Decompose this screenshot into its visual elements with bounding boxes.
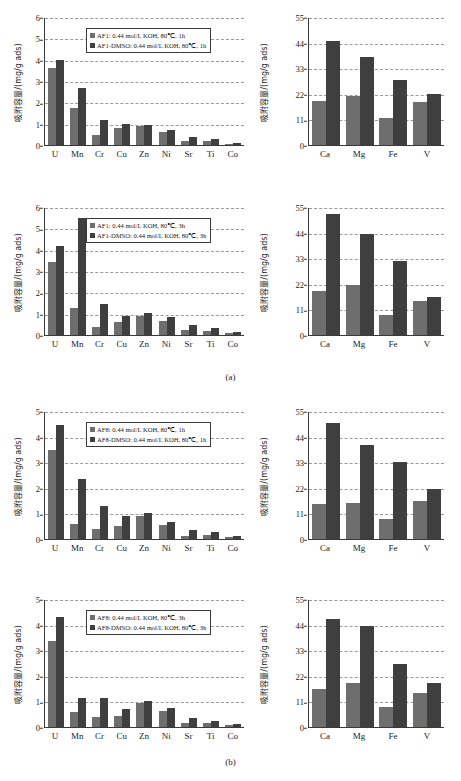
y-tick-label: 4 (36, 433, 40, 442)
x-tick-label-Ti: Ti (200, 543, 222, 553)
x-tick-label-Ni: Ni (155, 149, 177, 159)
bar-group-Fe (379, 600, 407, 727)
legend-entry: AF1: 0.44 mol/L KOH, 80℃, 1h (90, 31, 206, 41)
y-axis-ticks: 0123456 (26, 208, 42, 336)
x-tick-label-Fe: Fe (376, 543, 410, 553)
legend-entry: AF8: 0.44 mol/L KOH, 80℃, 1h (90, 425, 206, 435)
x-tick-label-Fe: Fe (376, 149, 410, 159)
bar-group-Fe (379, 208, 407, 335)
x-axis-ticks: UMnCrCuZnNiSrTiCo (44, 149, 244, 159)
x-tick-label-V: V (410, 731, 444, 741)
bar-Cr-series2 (100, 506, 108, 539)
bar-Ca-series2 (326, 423, 340, 539)
y-tick-label: 0 (300, 332, 304, 341)
y-axis-label: 吸附容量/(mg/g ads) (10, 18, 24, 146)
x-tick-label-Mg: Mg (342, 339, 376, 349)
y-axis-label: 吸附容量/(mg/g ads) (10, 208, 24, 336)
bar-Zn-series2 (144, 313, 152, 335)
bar-group-U (48, 600, 64, 727)
x-tick-label-Fe: Fe (376, 339, 410, 349)
x-tick-label-Ca: Ca (308, 149, 342, 159)
bar-Mn-series2 (78, 479, 86, 539)
y-axis-label-text: 吸附容量/(mg/g ads) (12, 437, 23, 515)
bar-Mg-series2 (360, 57, 374, 145)
legend-swatch-icon (90, 43, 95, 48)
bar-Cr-series2 (100, 698, 108, 727)
y-tick-label: 3 (36, 268, 40, 277)
bar-Co-series1 (225, 725, 233, 727)
y-tick-label: 44 (296, 229, 305, 238)
bar-Zn-series2 (144, 513, 152, 539)
bar-Sr-series2 (189, 718, 197, 727)
y-tick-label: 11 (296, 116, 304, 125)
y-tick-label: 0 (300, 142, 304, 151)
bar-group-V (413, 412, 441, 539)
y-tick-label: 55 (296, 14, 305, 23)
bar-Fe-series2 (393, 261, 407, 335)
y-tick-label: 22 (296, 485, 305, 494)
bar-Mg-series1 (346, 96, 360, 145)
bar-U-series1 (48, 262, 56, 335)
x-axis-ticks: CaMgFeV (308, 731, 444, 741)
bar-Mg-series1 (346, 285, 360, 335)
legend-label: AF1-DMSO: 0.44 mol/L KOH, 80℃, 3h (97, 231, 206, 241)
bar-Ca-series1 (312, 101, 326, 145)
bar-Mn-series1 (70, 108, 78, 145)
x-tick-label-Cr: Cr (88, 731, 110, 741)
chart-panel-af1-1h-trace: 吸附容量/(mg/g ads)0123456UMnCrCuZnNiSrTiCoA… (10, 6, 244, 166)
y-tick-label: 2 (36, 673, 40, 682)
bar-group-Ca (312, 600, 340, 727)
bar-Ti-series2 (211, 721, 219, 727)
bar-U-series1 (48, 450, 56, 539)
x-axis-ticks: UMnCrCuZnNiSrTiCo (44, 731, 244, 741)
legend-label: AF8: 0.44 mol/L KOH, 80℃, 1h (97, 425, 185, 435)
x-tick-label-Cr: Cr (88, 543, 110, 553)
y-tick-label: 4 (36, 621, 40, 630)
bar-Fe-series1 (379, 519, 393, 539)
legend-entry: AF1-DMSO: 0.44 mol/L KOH, 80℃, 3h (90, 231, 206, 241)
legend-swatch-icon (90, 615, 95, 620)
bar-Zn-series1 (136, 126, 144, 145)
x-tick-label-Ti: Ti (200, 731, 222, 741)
y-tick-label: 11 (296, 698, 304, 707)
plot-area (308, 412, 444, 540)
x-tick-label-Ca: Ca (308, 339, 342, 349)
bar-Fe-series1 (379, 315, 393, 335)
y-tick-label: 3 (36, 459, 40, 468)
y-axis-label-text: 吸附容量/(mg/g ads) (258, 233, 269, 311)
x-tick-label-Mg: Mg (342, 543, 376, 553)
bar-group-Ca (312, 18, 340, 145)
bar-Ni-series2 (167, 317, 175, 335)
legend-entry: AF8-DMSO: 0.44 mol/L KOH, 80℃, 1h (90, 435, 206, 445)
bar-V-series2 (427, 297, 441, 335)
x-tick-label-Zn: Zn (133, 731, 155, 741)
y-tick-label: 0 (36, 142, 40, 151)
bar-Ni-series1 (159, 711, 167, 727)
x-tick-label-Mn: Mn (66, 543, 88, 553)
y-tick-label: 0 (300, 724, 304, 733)
y-tick-label: 55 (296, 204, 305, 213)
bar-Ti-series2 (211, 328, 219, 335)
y-tick-label: 5 (36, 225, 40, 234)
y-tick-label: 5 (36, 408, 40, 417)
x-tick-label-U: U (44, 731, 66, 741)
bar-Ni-series1 (159, 321, 167, 335)
x-tick-label-U: U (44, 543, 66, 553)
bar-group-Mg (346, 600, 374, 727)
x-tick-label-Ca: Ca (308, 731, 342, 741)
bar-Co-series2 (233, 724, 241, 727)
legend-label: AF1: 0.44 mol/L KOH, 80℃, 3h (97, 221, 185, 231)
bar-Fe-series1 (379, 118, 393, 145)
bar-Ti-series2 (211, 532, 219, 539)
y-tick-label: 3 (36, 647, 40, 656)
x-tick-label-V: V (410, 149, 444, 159)
bar-Co-series1 (225, 144, 233, 145)
x-tick-label-Cu: Cu (111, 731, 133, 741)
legend-label: AF8: 0.44 mol/L KOH, 80℃, 3h (97, 613, 185, 623)
bar-group-Mn (70, 208, 86, 335)
bar-Fe-series2 (393, 664, 407, 727)
y-axis-label: 吸附容量/(mg/g ads) (256, 412, 270, 540)
bar-group-V (413, 208, 441, 335)
bar-Ti-series1 (203, 141, 211, 145)
legend-label: AF8-DMSO: 0.44 mol/L KOH, 80℃, 1h (97, 435, 206, 445)
